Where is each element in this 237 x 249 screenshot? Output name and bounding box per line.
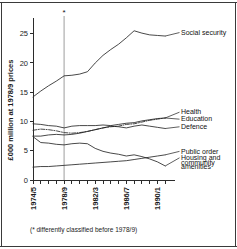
axes bbox=[33, 18, 175, 180]
annotation-leader bbox=[165, 112, 179, 118]
x-tick-label: 1986/7 bbox=[122, 187, 131, 210]
series-lines bbox=[33, 31, 165, 167]
x-tick-label: 1978/9 bbox=[60, 187, 69, 210]
series-line-housing-and-community-amenities bbox=[33, 137, 165, 166]
annotation-leader bbox=[165, 118, 179, 119]
x-tick-label: 1990/1 bbox=[153, 187, 162, 210]
series-label-defence: Defence bbox=[181, 123, 207, 130]
y-tick-label: 10 bbox=[20, 117, 28, 126]
reference-line-1978-9: * bbox=[63, 8, 66, 180]
series-label-amenities: amenities bbox=[181, 163, 211, 170]
y-tick-label: 15 bbox=[20, 88, 28, 97]
series-label-education: Education bbox=[181, 115, 212, 122]
series-line-social-security bbox=[33, 31, 165, 97]
reference-asterisk-marker: * bbox=[63, 8, 66, 17]
y-tick-label: 20 bbox=[20, 59, 28, 68]
y-tick-labels: 0510152025 bbox=[20, 29, 28, 184]
x-tick-labels: 1974/51978/91982/31986/71990/1 bbox=[29, 187, 162, 210]
annotation-leader bbox=[165, 127, 179, 129]
chart-figure: * 0510152025 1974/51978/91982/31986/7199… bbox=[0, 0, 237, 249]
annotation-leader bbox=[165, 33, 179, 36]
annotation-leader bbox=[165, 158, 179, 166]
y-tick-label: 5 bbox=[24, 146, 28, 155]
annotation-leader bbox=[165, 151, 179, 154]
y-axis-ticks bbox=[30, 34, 34, 180]
series-label-health: Health bbox=[181, 108, 201, 115]
series-line-health bbox=[33, 118, 165, 128]
series-label-social-security: Social security bbox=[181, 29, 227, 37]
x-tick-label: 1982/3 bbox=[91, 187, 100, 210]
chart-footnote: (* differently classified before 1978/9) bbox=[30, 226, 137, 234]
series-line-defence bbox=[33, 125, 165, 136]
series-line-public-order bbox=[33, 155, 165, 167]
y-tick-label: 0 bbox=[24, 176, 28, 185]
y-tick-label: 25 bbox=[20, 29, 28, 38]
series-annotations: Social securityHealthEducationDefencePub… bbox=[165, 29, 226, 171]
y-axis-title: £000 million at 1978/9 prices bbox=[6, 60, 15, 161]
x-axis-ticks bbox=[33, 180, 165, 184]
x-tick-label: 1974/5 bbox=[29, 187, 38, 210]
line-chart: * 0510152025 1974/51978/91982/31986/7199… bbox=[0, 0, 237, 249]
